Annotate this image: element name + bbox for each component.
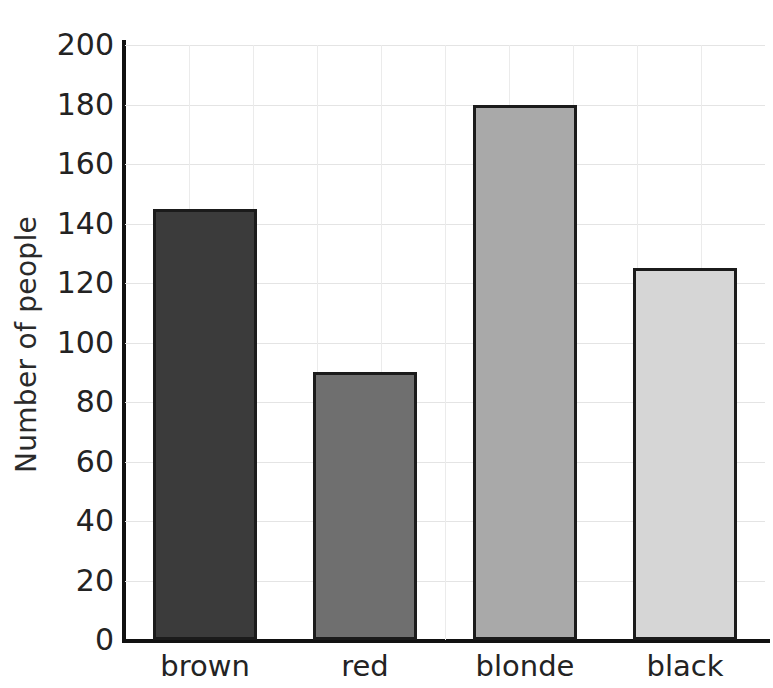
bar-red: [313, 372, 417, 640]
y-axis-title: Number of people: [0, 0, 52, 688]
y-tick-label: 160: [46, 149, 114, 179]
bar-black: [633, 268, 737, 640]
bar-blonde: [473, 105, 577, 641]
bar-brown: [153, 209, 257, 640]
gridline-vertical: [445, 45, 446, 640]
y-tick-label: 180: [46, 90, 114, 120]
y-tick-label: 20: [46, 566, 114, 596]
y-tick-label: 80: [46, 387, 114, 417]
y-tick-label: 60: [46, 447, 114, 477]
y-tick-label: 200: [46, 30, 114, 60]
y-axis-title-text: Number of people: [10, 216, 43, 473]
x-tick-label-brown: brown: [160, 652, 250, 681]
y-tick-label: 40: [46, 506, 114, 536]
chart-title-cropped: [0, 0, 773, 14]
y-tick-label: 140: [46, 209, 114, 239]
bar-chart: Number of people 02040608010012014016018…: [0, 0, 773, 688]
plot-area: [125, 45, 765, 640]
x-tick-label-black: black: [647, 652, 724, 681]
y-tick-label: 100: [46, 328, 114, 358]
x-tick-label-blonde: blonde: [476, 652, 575, 681]
y-tick-label: 120: [46, 268, 114, 298]
x-tick-label-red: red: [341, 652, 389, 681]
y-tick-label: 0: [46, 625, 114, 655]
